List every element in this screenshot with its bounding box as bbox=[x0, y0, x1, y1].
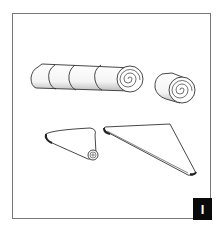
step-number: I bbox=[201, 203, 205, 216]
small-triangle-drawing bbox=[45, 128, 98, 160]
step-number-badge: I bbox=[193, 198, 212, 220]
short-roll-drawing bbox=[155, 73, 195, 103]
large-triangle-drawing bbox=[104, 124, 196, 176]
long-roll-drawing bbox=[31, 64, 143, 92]
pastry-rolling-illustration bbox=[0, 0, 224, 232]
